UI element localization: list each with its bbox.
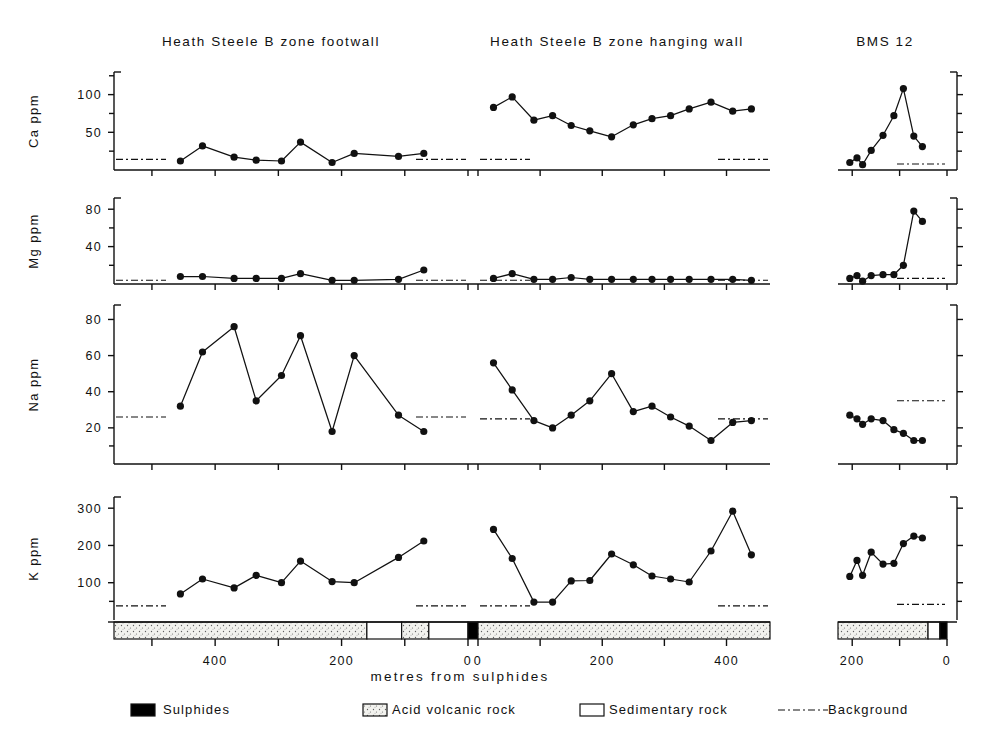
y-axis-label: Na ppm: [26, 358, 41, 412]
data-point: [910, 437, 917, 444]
data-point: [586, 276, 593, 283]
data-point: [549, 599, 556, 606]
data-point: [910, 208, 917, 215]
data-point: [395, 153, 402, 160]
data-point: [667, 276, 674, 283]
data-point: [868, 272, 875, 279]
legend-swatch-sedimentary: [580, 704, 604, 716]
data-point: [846, 412, 853, 419]
x-axis-title: metres from sulphides: [371, 669, 550, 684]
data-point: [686, 578, 693, 585]
data-point: [729, 419, 736, 426]
y-axis-tick-label: 20: [85, 421, 102, 435]
data-point: [868, 415, 875, 422]
data-point: [490, 526, 497, 533]
y-axis-label: Mg ppm: [26, 213, 41, 268]
data-point: [667, 575, 674, 582]
data-point: [686, 105, 693, 112]
legend-swatch-acid-volcanic: [363, 704, 387, 716]
data-series-line: [180, 327, 423, 432]
data-point: [748, 105, 755, 112]
data-point: [879, 132, 886, 139]
data-point: [667, 112, 674, 119]
data-point: [549, 276, 556, 283]
x-axis-tick-label: 200: [840, 654, 865, 668]
data-point: [919, 143, 926, 150]
data-point: [707, 437, 714, 444]
data-point: [648, 572, 655, 579]
data-point: [420, 150, 427, 157]
data-point: [199, 348, 206, 355]
data-point: [530, 117, 537, 124]
data-point: [420, 266, 427, 273]
data-point: [890, 112, 897, 119]
data-point: [729, 508, 736, 515]
data-series-line: [850, 211, 923, 281]
legend-label-sedimentary: Sedimentary rock: [609, 702, 728, 717]
y-axis-label: Ca ppm: [26, 94, 41, 148]
data-point: [648, 115, 655, 122]
y-axis-tick-label: 80: [85, 203, 102, 217]
data-point: [879, 561, 886, 568]
data-series-line: [850, 536, 923, 576]
data-point: [608, 133, 615, 140]
data-point: [890, 271, 897, 278]
x-axis-tick-label: 200: [590, 654, 615, 668]
figure-root: Heath Steele B zone footwallHeath Steele…: [0, 0, 998, 749]
data-point: [199, 273, 206, 280]
data-series-line: [850, 89, 923, 165]
geology-segment-sulphides: [468, 622, 478, 639]
data-point: [509, 555, 516, 562]
data-point: [648, 403, 655, 410]
data-point: [568, 274, 575, 281]
data-point: [879, 271, 886, 278]
data-point: [686, 276, 693, 283]
geology-segment-acid-volcanic: [838, 622, 928, 639]
data-point: [253, 157, 260, 164]
data-point: [586, 127, 593, 134]
x-axis-tick-label: 200: [329, 654, 354, 668]
data-point: [630, 561, 637, 568]
data-point: [608, 370, 615, 377]
data-point: [919, 437, 926, 444]
data-point: [853, 415, 860, 422]
data-point: [509, 93, 516, 100]
data-point: [253, 572, 260, 579]
geology-segment-sedimentary: [429, 622, 468, 639]
data-point: [509, 386, 516, 393]
data-point: [351, 579, 358, 586]
geology-segment-sedimentary: [367, 622, 402, 639]
data-point: [568, 122, 575, 129]
data-point: [890, 560, 897, 567]
x-axis-tick-label: 400: [714, 654, 739, 668]
data-point: [278, 275, 285, 282]
data-point: [586, 397, 593, 404]
data-point: [351, 150, 358, 157]
data-point: [630, 408, 637, 415]
data-point: [177, 273, 184, 280]
data-point: [177, 157, 184, 164]
data-point: [231, 584, 238, 591]
data-point: [900, 85, 907, 92]
y-axis-tick-label: 50: [85, 126, 102, 140]
data-point: [910, 133, 917, 140]
y-axis-tick-label: 60: [85, 349, 102, 363]
data-point: [707, 547, 714, 554]
data-point: [420, 537, 427, 544]
data-point: [278, 579, 285, 586]
geology-segment-acid-volcanic: [402, 622, 429, 639]
data-point: [351, 352, 358, 359]
data-point: [490, 359, 497, 366]
data-point: [859, 161, 866, 168]
geochemistry-profile-chart: Heath Steele B zone footwallHeath Steele…: [0, 0, 998, 749]
data-point: [530, 599, 537, 606]
data-point: [890, 426, 897, 433]
y-axis-tick-label: 300: [77, 502, 102, 516]
geology-segment-acid-volcanic: [114, 622, 367, 639]
y-axis-tick-label: 80: [85, 313, 102, 327]
y-axis-tick-label: 40: [85, 385, 102, 399]
data-point: [667, 413, 674, 420]
data-point: [630, 276, 637, 283]
data-point: [910, 533, 917, 540]
data-point: [395, 554, 402, 561]
